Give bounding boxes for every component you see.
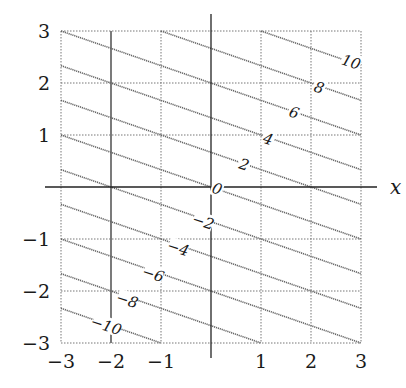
y-tick-label: −2 bbox=[22, 280, 50, 302]
axes bbox=[45, 14, 377, 358]
contour-label: −4 bbox=[165, 236, 192, 260]
contour-label: 10 bbox=[339, 51, 363, 74]
x-tick-label: −2 bbox=[97, 350, 125, 372]
y-tick-label: −1 bbox=[22, 228, 50, 250]
contour-label: −2 bbox=[190, 210, 217, 234]
x-tick-label: −3 bbox=[47, 350, 75, 372]
x-tick-label: 2 bbox=[305, 350, 317, 372]
x-tick-label: −1 bbox=[147, 350, 175, 372]
contour-label: 4 bbox=[260, 129, 276, 149]
y-tick-label: 1 bbox=[38, 124, 50, 146]
y-tick-label: −3 bbox=[22, 332, 50, 354]
contour-label: 2 bbox=[236, 154, 252, 174]
x-tick-label: 3 bbox=[355, 350, 367, 372]
contour-label: −6 bbox=[140, 262, 167, 286]
contour-label: −10 bbox=[88, 312, 124, 339]
x-tick-label: 1 bbox=[255, 350, 267, 372]
y-tick-label: 2 bbox=[38, 72, 50, 94]
x-axis-label: x bbox=[390, 175, 401, 199]
y-axis-label: y bbox=[203, 0, 216, 1]
contour-label: −8 bbox=[114, 288, 141, 312]
y-tick-label: 3 bbox=[38, 20, 50, 42]
contour-plot: 1086420−2−4−6−8−10 −3−2−1123321−1−2−3 x … bbox=[0, 0, 406, 388]
